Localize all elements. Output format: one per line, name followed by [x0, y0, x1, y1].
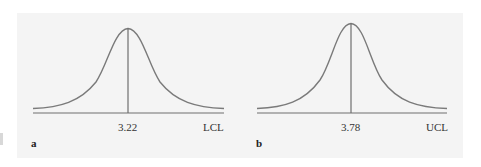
panel-a-plot [33, 29, 224, 114]
panel-b-center-label: 3.78 [341, 122, 360, 133]
panel-b-normal-curve [257, 24, 447, 109]
panel-b-limit-label: UCL [426, 122, 448, 133]
panel-b-letter: b [256, 138, 262, 149]
panel-a-limit-label: LCL [203, 122, 224, 133]
normal-curves-figure [0, 0, 481, 167]
panel-a-letter: a [31, 138, 37, 149]
panel-b-plot [257, 24, 447, 114]
panel-a-center-label: 3.22 [118, 122, 137, 133]
